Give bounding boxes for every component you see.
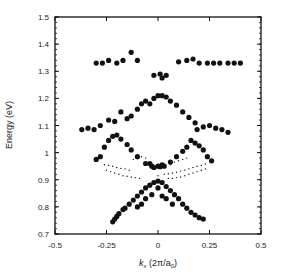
data-point bbox=[211, 61, 216, 66]
data-point bbox=[188, 174, 189, 175]
y-tick-label: 1.2 bbox=[38, 94, 50, 103]
data-point bbox=[125, 142, 130, 147]
data-point bbox=[168, 188, 173, 193]
data-point bbox=[232, 61, 237, 66]
y-axis-label: Energy (eV) bbox=[4, 101, 14, 149]
data-point bbox=[112, 166, 113, 167]
data-point bbox=[141, 156, 142, 157]
data-point bbox=[92, 127, 97, 132]
data-point bbox=[174, 161, 175, 162]
band-structure-chart: 0.70.80.911.11.21.31.41.5-0.5-0.2500.250… bbox=[0, 0, 282, 279]
data-point bbox=[114, 61, 119, 66]
data-point bbox=[135, 177, 136, 178]
data-point bbox=[205, 61, 210, 66]
data-point bbox=[120, 168, 121, 169]
data-point bbox=[164, 184, 169, 189]
data-point bbox=[162, 164, 167, 169]
y-tick-label: 0.9 bbox=[38, 176, 50, 185]
data-point bbox=[114, 172, 115, 173]
data-point bbox=[127, 202, 132, 207]
data-point bbox=[164, 174, 165, 175]
data-point bbox=[164, 196, 169, 201]
x-axis-label: kx (2π/a0) bbox=[139, 258, 177, 269]
data-point bbox=[143, 196, 148, 201]
data-point bbox=[184, 58, 189, 63]
data-point bbox=[106, 138, 111, 143]
data-point bbox=[201, 124, 206, 129]
axis-ticks bbox=[55, 17, 261, 234]
data-point bbox=[129, 113, 134, 118]
data-point bbox=[205, 163, 206, 164]
data-point bbox=[217, 61, 222, 66]
data-point bbox=[195, 127, 200, 132]
y-tick-label: 1.1 bbox=[38, 122, 50, 131]
data-point bbox=[180, 202, 185, 207]
data-point bbox=[106, 118, 111, 123]
x-tick-label: 0 bbox=[156, 241, 161, 250]
data-point bbox=[180, 149, 185, 154]
data-point bbox=[85, 126, 90, 131]
data-point bbox=[168, 178, 169, 179]
data-point bbox=[149, 192, 154, 197]
data-point bbox=[190, 56, 195, 61]
data-point bbox=[176, 196, 181, 201]
data-point bbox=[180, 170, 181, 171]
data-point bbox=[135, 204, 140, 209]
data-point bbox=[213, 126, 218, 131]
data-point bbox=[98, 123, 103, 128]
data-point bbox=[180, 109, 185, 114]
data-point bbox=[155, 185, 160, 190]
y-tick-label: 1.3 bbox=[38, 67, 50, 76]
data-point bbox=[164, 94, 169, 99]
data-point bbox=[116, 211, 121, 216]
data-point bbox=[168, 160, 173, 165]
data-point bbox=[196, 166, 197, 167]
data-point bbox=[197, 143, 202, 148]
data-point bbox=[184, 206, 189, 211]
data-point bbox=[147, 101, 152, 106]
data-point bbox=[193, 120, 198, 125]
data-point bbox=[106, 58, 111, 63]
data-point bbox=[170, 164, 171, 165]
data-point bbox=[135, 193, 140, 198]
data-point bbox=[192, 167, 193, 168]
data-point bbox=[114, 132, 119, 137]
x-tick-label: 0.5 bbox=[255, 241, 267, 250]
data-point bbox=[118, 137, 123, 142]
data-point bbox=[209, 158, 214, 163]
data-point bbox=[201, 170, 202, 171]
plot-frame bbox=[55, 17, 261, 234]
data-point bbox=[79, 127, 84, 132]
data-point bbox=[94, 61, 99, 66]
data-point bbox=[225, 130, 230, 135]
data-point bbox=[122, 206, 127, 211]
data-point bbox=[205, 154, 210, 159]
data-point bbox=[137, 157, 138, 158]
data-point bbox=[182, 159, 183, 160]
data-point bbox=[174, 103, 179, 108]
data-point bbox=[116, 167, 117, 168]
data-point bbox=[172, 178, 173, 179]
data-point bbox=[184, 175, 185, 176]
data-point bbox=[170, 202, 175, 207]
data-point bbox=[112, 119, 117, 124]
data-point bbox=[151, 73, 156, 78]
data-point bbox=[118, 174, 119, 175]
x-tick-label: -0.25 bbox=[97, 241, 116, 250]
data-point bbox=[207, 123, 212, 128]
data-point bbox=[131, 198, 136, 203]
data-point bbox=[164, 73, 169, 78]
data-point bbox=[133, 159, 134, 160]
data-point bbox=[176, 177, 177, 178]
data-point bbox=[188, 168, 189, 169]
data-point bbox=[126, 176, 127, 177]
y-tick-label: 0.8 bbox=[38, 203, 50, 212]
y-tick-label: 0.7 bbox=[38, 230, 50, 239]
data-point bbox=[129, 147, 134, 152]
data-point bbox=[184, 145, 189, 150]
data-points bbox=[79, 50, 243, 225]
data-point bbox=[225, 61, 230, 66]
x-tick-label: -0.5 bbox=[48, 241, 62, 250]
data-point bbox=[201, 165, 202, 166]
data-point bbox=[98, 154, 103, 159]
